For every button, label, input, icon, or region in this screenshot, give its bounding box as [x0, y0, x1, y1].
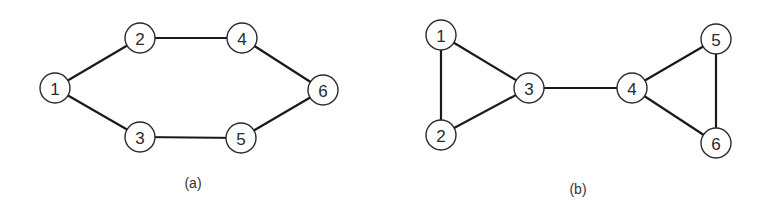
- node-4: 4: [227, 23, 257, 53]
- node-label: 4: [237, 30, 246, 49]
- node-label: 1: [50, 80, 59, 99]
- node-label: 3: [524, 80, 533, 99]
- graph-figure-a: 123456(a): [40, 23, 338, 191]
- node-5: 5: [226, 123, 256, 153]
- node-label: 5: [711, 31, 720, 50]
- node-label: 4: [627, 80, 636, 99]
- node-3: 3: [125, 122, 155, 152]
- node-2: 2: [426, 120, 456, 150]
- node-label: 6: [318, 82, 327, 101]
- node-3: 3: [514, 73, 544, 103]
- node-label: 2: [135, 30, 144, 49]
- node-6: 6: [308, 75, 338, 105]
- node-label: 2: [436, 127, 445, 146]
- node-5: 5: [701, 24, 731, 54]
- node-label: 1: [436, 27, 445, 46]
- figure-caption: (b): [569, 181, 586, 197]
- graph-figure-b: 123456(b): [426, 20, 731, 197]
- node-label: 6: [711, 135, 720, 154]
- node-2: 2: [125, 23, 155, 53]
- figure-caption: (a): [184, 175, 201, 191]
- node-label: 5: [236, 130, 245, 149]
- graph-diagram: 123456(a)123456(b): [0, 0, 770, 212]
- node-label: 3: [135, 129, 144, 148]
- node-6: 6: [701, 128, 731, 158]
- node-4: 4: [617, 73, 647, 103]
- node-1: 1: [426, 20, 456, 50]
- node-1: 1: [40, 73, 70, 103]
